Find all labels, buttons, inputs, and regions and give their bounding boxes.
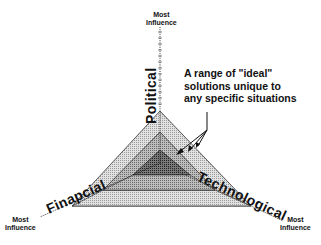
most-text: Most — [146, 11, 177, 18]
influence-text: Influence — [5, 224, 36, 231]
annotation-line-3: any specific situations — [184, 92, 297, 105]
most-text: Most — [5, 216, 36, 223]
annotation-line-2: solutions unique to — [184, 80, 297, 93]
influence-text: Influence — [146, 19, 177, 26]
influence-triangle-diagram: Most Influence Most Influence Most Influ… — [0, 0, 321, 245]
political-axis-label: Political — [144, 68, 158, 124]
influence-text: Influence — [280, 224, 311, 231]
annotation-line-1: A range of "ideal" — [184, 67, 297, 80]
political-most-influence-label: Most Influence — [146, 11, 177, 26]
ideal-solutions-annotation: A range of "ideal" solutions unique to a… — [184, 67, 297, 105]
financial-most-influence-label: Most Influence — [5, 216, 36, 231]
